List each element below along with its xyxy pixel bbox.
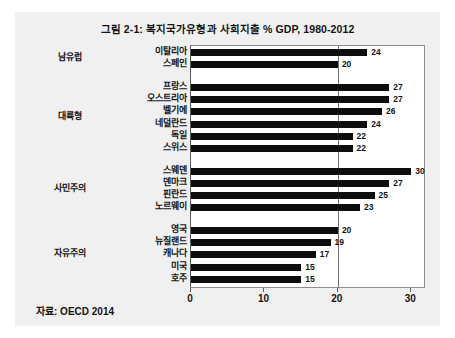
x-tick-label-0: 0 bbox=[187, 293, 193, 304]
bar bbox=[191, 61, 338, 68]
bar-row: 27 bbox=[191, 180, 426, 187]
bar bbox=[191, 180, 389, 187]
bar-value-label: 24 bbox=[371, 45, 380, 59]
bar bbox=[191, 251, 316, 258]
bar-row: 26 bbox=[191, 108, 426, 115]
bar bbox=[191, 204, 360, 211]
bar bbox=[191, 121, 367, 128]
x-tick-label-20: 20 bbox=[331, 293, 342, 304]
chart-title: 그림 2-1: 복지국가유형과 사회지출 % GDP, 1980-2012 bbox=[15, 21, 440, 36]
bar-rows: 2420272726242222302725232019171515 bbox=[191, 46, 424, 287]
bar-row: 30 bbox=[191, 168, 426, 175]
bar bbox=[191, 145, 353, 152]
group-label-3: 자유주의 bbox=[37, 249, 103, 258]
bar bbox=[191, 264, 301, 271]
bar-row: 20 bbox=[191, 61, 426, 68]
bar-row: 24 bbox=[191, 49, 426, 56]
bar bbox=[191, 192, 375, 199]
bar bbox=[191, 96, 389, 103]
bar-value-label: 30 bbox=[415, 164, 424, 178]
bar-row: 15 bbox=[191, 264, 426, 271]
bar-value-label: 25 bbox=[379, 188, 388, 202]
bar-value-label: 19 bbox=[335, 235, 344, 249]
source-note: 자료: OECD 2014 bbox=[36, 303, 114, 318]
x-tick-mark-20 bbox=[337, 288, 338, 292]
bar-value-label: 24 bbox=[371, 117, 380, 131]
x-tick-mark-10 bbox=[263, 288, 264, 292]
bar-row: 20 bbox=[191, 227, 426, 234]
bar-row: 19 bbox=[191, 239, 426, 246]
bar-value-label: 26 bbox=[386, 104, 395, 118]
bar-row: 27 bbox=[191, 84, 426, 91]
x-tick-label-30: 30 bbox=[405, 293, 416, 304]
bar-value-label: 27 bbox=[393, 176, 402, 190]
bar bbox=[191, 49, 367, 56]
bar bbox=[191, 108, 382, 115]
bar-row: 22 bbox=[191, 133, 426, 140]
bar-row: 27 bbox=[191, 96, 426, 103]
x-tick-mark-0 bbox=[190, 288, 191, 292]
bar-row: 23 bbox=[191, 204, 426, 211]
bar bbox=[191, 168, 411, 175]
bar bbox=[191, 227, 338, 234]
plot-area: 2420272726242222302725232019171515 bbox=[190, 45, 425, 288]
bar-value-label: 17 bbox=[320, 247, 329, 261]
bar-value-label: 22 bbox=[357, 141, 366, 155]
group-label-2: 사민주의 bbox=[37, 184, 103, 193]
x-tick-mark-30 bbox=[410, 288, 411, 292]
bar-row: 25 bbox=[191, 192, 426, 199]
bar bbox=[191, 239, 331, 246]
bar-row: 17 bbox=[191, 251, 426, 258]
plot-inner: 2420272726242222302725232019171515 bbox=[191, 46, 424, 287]
bar-value-label: 20 bbox=[342, 57, 351, 71]
bar bbox=[191, 133, 353, 140]
x-tick-label-10: 10 bbox=[258, 293, 269, 304]
bar-row: 24 bbox=[191, 121, 426, 128]
bar-value-label: 15 bbox=[305, 272, 314, 286]
x-axis: 0102030 bbox=[190, 288, 425, 310]
bar bbox=[191, 276, 301, 283]
bar-value-label: 23 bbox=[364, 200, 373, 214]
group-label-0: 남유럽 bbox=[37, 53, 103, 62]
group-label-1: 대륙형 bbox=[37, 112, 103, 121]
bar-row: 22 bbox=[191, 145, 426, 152]
bar-row: 15 bbox=[191, 276, 426, 283]
bar bbox=[191, 84, 389, 91]
figure-panel: 그림 2-1: 복지국가유형과 사회지출 % GDP, 1980-2012 24… bbox=[15, 12, 440, 326]
group-axis-labels: 남유럽대륙형사민주의자유주의 bbox=[37, 45, 103, 288]
